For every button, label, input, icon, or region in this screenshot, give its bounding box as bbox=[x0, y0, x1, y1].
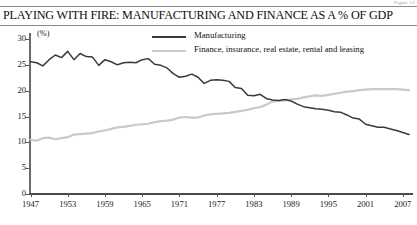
chart-plot-area: (%) 051015202530 19471953195919651971197… bbox=[0, 28, 417, 225]
page-title: PLAYING WITH FIRE: MANUFACTURING AND FIN… bbox=[3, 8, 393, 23]
legend-label: Manufacturing bbox=[194, 30, 246, 40]
title-rule: PLAYING WITH FIRE: MANUFACTURING AND FIN… bbox=[0, 6, 417, 26]
chart-lines bbox=[0, 28, 417, 225]
legend-swatch-icon bbox=[152, 50, 186, 52]
legend-label: Finance, insurance, real estate, rental … bbox=[194, 44, 364, 54]
series-line-manufacturing bbox=[31, 51, 410, 134]
figure-note: Figure 13 bbox=[394, 0, 415, 5]
legend-swatch-icon bbox=[152, 36, 186, 38]
series-line-finance bbox=[31, 89, 410, 141]
